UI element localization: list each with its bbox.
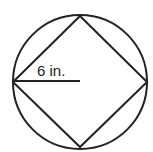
radius-label: 6 in. [37,62,65,79]
diagram: 6 in. [0,0,153,152]
